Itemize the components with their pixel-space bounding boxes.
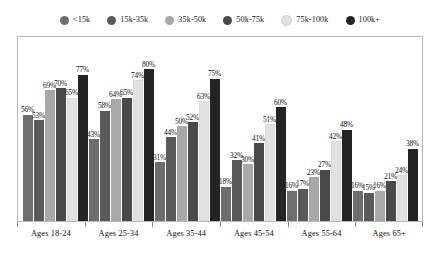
bar-value-label: 16% xyxy=(373,182,386,189)
axis-tick-mark xyxy=(17,222,18,227)
bar-wrapper: 51% xyxy=(265,37,275,221)
bar[interactable] xyxy=(353,191,363,221)
bar-group: 56%53%69%70%65%77% xyxy=(22,37,88,221)
bar[interactable] xyxy=(276,107,286,221)
bar-groups: 56%53%69%70%65%77%43%58%64%65%74%80%31%4… xyxy=(18,37,422,221)
bar-value-label: 58% xyxy=(98,102,111,109)
bar[interactable] xyxy=(166,137,176,221)
legend-item[interactable]: 75k-100k xyxy=(281,15,328,26)
bar-wrapper: 24% xyxy=(397,37,407,221)
legend-item[interactable]: 15k-35k xyxy=(107,16,148,25)
bar[interactable] xyxy=(78,75,88,221)
bar[interactable] xyxy=(144,69,154,221)
bar[interactable] xyxy=(89,139,99,221)
bar[interactable] xyxy=(221,187,231,221)
bar[interactable] xyxy=(177,126,187,221)
bar-value-label: 51% xyxy=(263,116,276,123)
legend-swatch-icon xyxy=(107,16,116,25)
axis-tick-group: Ages 35-44 xyxy=(152,222,220,244)
bar-value-label: 31% xyxy=(153,154,166,161)
legend-item[interactable]: <15k xyxy=(60,16,90,25)
bar[interactable] xyxy=(67,98,77,222)
bar-wrapper: 50% xyxy=(177,37,187,221)
bar[interactable] xyxy=(56,88,66,221)
bar-value-label: 27% xyxy=(318,161,331,168)
legend-swatch-icon xyxy=(165,16,174,25)
bar-wrapper: 21% xyxy=(386,37,396,221)
bar[interactable] xyxy=(386,181,396,221)
bar[interactable] xyxy=(45,90,55,221)
bar-wrapper: 16% xyxy=(353,37,363,221)
bar-value-label: 65% xyxy=(65,89,78,96)
bar[interactable] xyxy=(342,130,352,221)
bar[interactable] xyxy=(298,189,308,221)
bar-value-label: 41% xyxy=(252,135,265,142)
bar[interactable] xyxy=(210,79,220,222)
bar-wrapper: 16% xyxy=(287,37,297,221)
bar-wrapper: 27% xyxy=(320,37,330,221)
bar[interactable] xyxy=(133,80,143,221)
bar[interactable] xyxy=(111,99,121,221)
axis-tick-mark xyxy=(152,222,153,227)
bar[interactable] xyxy=(254,143,264,221)
x-axis: Ages 18-24Ages 25-34Ages 35-44Ages 45-54… xyxy=(17,222,423,244)
axis-tick-mark xyxy=(220,222,221,227)
bar-wrapper: 30% xyxy=(243,37,253,221)
bar[interactable] xyxy=(364,193,374,222)
legend-item[interactable]: 50k-75k xyxy=(223,16,264,25)
bar-wrapper: 75% xyxy=(210,37,220,221)
bar-wrapper: 44% xyxy=(166,37,176,221)
bar-wrapper: 48% xyxy=(342,37,352,221)
legend-swatch-icon xyxy=(346,16,355,25)
bar[interactable] xyxy=(188,122,198,221)
chart-legend: <15k15k-35k35k-50k50k-75k75k-100k100k+ xyxy=(0,10,440,30)
bar-wrapper: 56% xyxy=(23,37,33,221)
legend-item-label: 75k-100k xyxy=(296,16,328,24)
bar[interactable] xyxy=(265,124,275,221)
bar[interactable] xyxy=(199,101,209,221)
bar-wrapper: 43% xyxy=(89,37,99,221)
chart-container: <15k15k-35k35k-50k50k-75k75k-100k100k+ 5… xyxy=(0,0,440,253)
bar[interactable] xyxy=(122,98,132,222)
bar-value-label: 65% xyxy=(120,89,133,96)
bar[interactable] xyxy=(34,120,44,221)
bar[interactable] xyxy=(320,170,330,221)
bar[interactable] xyxy=(309,177,319,221)
bar-value-label: 42% xyxy=(329,133,342,140)
axis-label: Ages 65+ xyxy=(373,229,406,238)
bar[interactable] xyxy=(375,191,385,221)
legend-item-label: 15k-35k xyxy=(120,16,148,24)
bar[interactable] xyxy=(100,111,110,221)
bar-group: 43%58%64%65%74%80% xyxy=(88,37,154,221)
bar[interactable] xyxy=(243,164,253,221)
bar-value-label: 70% xyxy=(54,80,67,87)
bar[interactable] xyxy=(23,115,33,221)
bar-value-label: 52% xyxy=(186,114,199,121)
bar-wrapper: 70% xyxy=(56,37,66,221)
bar-value-label: 17% xyxy=(296,180,309,187)
axis-label: Ages 35-44 xyxy=(166,229,206,238)
bar-wrapper: 18% xyxy=(221,37,231,221)
axis-label: Ages 25-34 xyxy=(99,229,139,238)
bar[interactable] xyxy=(397,175,407,221)
bar-wrapper: 15% xyxy=(364,37,374,221)
bar-wrapper: 53% xyxy=(34,37,44,221)
axis-tick-group: Ages 65+ xyxy=(355,222,423,244)
legend-swatch-icon xyxy=(281,15,292,26)
bar-value-label: 44% xyxy=(164,129,177,136)
bar[interactable] xyxy=(331,141,341,221)
bar-group: 16%17%23%27%42%48% xyxy=(286,37,352,221)
legend-item[interactable]: 35k-50k xyxy=(165,16,206,25)
bar-wrapper: 64% xyxy=(111,37,121,221)
bar[interactable] xyxy=(408,149,418,221)
bar-wrapper: 16% xyxy=(375,37,385,221)
axis-tick-group: Ages 55-64 xyxy=(288,222,356,244)
bar[interactable] xyxy=(155,162,165,221)
axis-tick-mark xyxy=(85,222,86,227)
bar-value-label: 38% xyxy=(406,140,419,147)
bar[interactable] xyxy=(287,191,297,221)
bar[interactable] xyxy=(232,160,242,221)
legend-item-label: 50k-75k xyxy=(236,16,264,24)
bar-value-label: 23% xyxy=(307,169,320,176)
legend-item[interactable]: 100k+ xyxy=(346,16,381,25)
